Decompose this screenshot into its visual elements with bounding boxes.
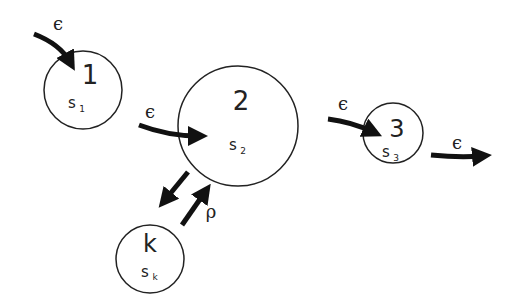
arrow-icon (431, 155, 482, 157)
diagram-canvas: 1 s 1 2 s 2 3 s 3 k s k ϵ ϵ ϵ ϵ (0, 0, 516, 304)
node-3-label: 3 (389, 115, 404, 143)
edge-k-2-label: ρ (206, 201, 217, 222)
edge-out-3: ϵ (431, 132, 482, 157)
node-k-subscript: k (152, 272, 158, 282)
node-k-state: s (141, 263, 149, 281)
node-2-circle (178, 66, 298, 186)
edge-1-2: ϵ (139, 101, 198, 136)
node-3-state: s (382, 143, 390, 161)
arrow-icon (34, 34, 70, 62)
edge-k-2: ρ (182, 192, 216, 225)
node-k-label: k (143, 230, 157, 258)
node-k: k s k (116, 225, 184, 293)
node-1-state: s (68, 94, 76, 112)
node-2-state: s (229, 136, 237, 154)
node-2-label: 2 (233, 86, 250, 116)
edge-2-k (165, 172, 188, 200)
edge-out-3-label: ϵ (452, 132, 462, 153)
arrow-icon (165, 172, 188, 200)
edge-2-3-label: ϵ (338, 93, 348, 114)
edge-1-2-label: ϵ (145, 101, 155, 122)
node-2: 2 s 2 (178, 66, 298, 186)
node-1-label: 1 (82, 60, 99, 90)
node-1-subscript: 1 (79, 104, 85, 114)
edge-2-3: ϵ (328, 93, 373, 132)
arrow-icon (182, 192, 205, 225)
edge-in-1: ϵ (34, 13, 70, 62)
edge-in-1-label: ϵ (53, 13, 63, 34)
node-2-subscript: 2 (240, 146, 246, 156)
node-3-subscript: 3 (393, 153, 399, 163)
node-1: 1 s 1 (44, 51, 122, 129)
arrow-icon (139, 125, 198, 136)
